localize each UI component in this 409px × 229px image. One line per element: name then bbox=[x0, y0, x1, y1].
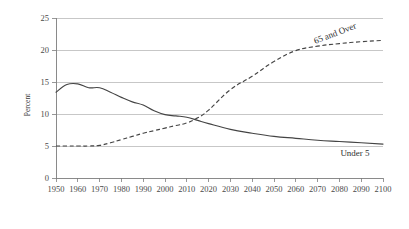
x-tick-label-2000: 2000 bbox=[157, 184, 174, 194]
x-tick-label-1950: 1950 bbox=[48, 184, 65, 194]
y-tick-label-5: 5 bbox=[45, 141, 49, 151]
x-tick-label-2080: 2080 bbox=[331, 184, 348, 194]
y-tick-label-25: 25 bbox=[41, 13, 50, 23]
x-tick-label-2100: 2100 bbox=[375, 184, 392, 194]
series-line-65-and-over bbox=[56, 40, 383, 146]
y-tick-labels: 0 5 10 15 20 25 bbox=[41, 13, 50, 183]
x-tick-label-1970: 1970 bbox=[91, 184, 108, 194]
x-tick-label-2040: 2040 bbox=[244, 184, 261, 194]
y-tick-marks bbox=[52, 18, 56, 178]
y-axis-title: Percent bbox=[23, 93, 32, 116]
x-tick-labels: 1950 1960 1970 1980 1990 2000 2010 2020 … bbox=[48, 184, 392, 194]
x-tick-marks bbox=[56, 178, 383, 182]
y-tick-label-10: 10 bbox=[41, 109, 50, 119]
x-tick-label-1960: 1960 bbox=[69, 184, 86, 194]
y-tick-label-0: 0 bbox=[45, 173, 49, 183]
x-tick-label-2010: 2010 bbox=[178, 184, 195, 194]
x-tick-label-2070: 2070 bbox=[309, 184, 326, 194]
x-tick-label-2050: 2050 bbox=[266, 184, 283, 194]
y-tick-label-20: 20 bbox=[41, 45, 50, 55]
population-percent-line-chart: 0 5 10 15 20 25 1950 1960 1970 1980 1990… bbox=[0, 0, 409, 229]
x-tick-label-2030: 2030 bbox=[222, 184, 239, 194]
x-tick-label-2060: 2060 bbox=[287, 184, 304, 194]
x-tick-label-1990: 1990 bbox=[135, 184, 152, 194]
series-label-under-5: Under 5 bbox=[340, 148, 370, 158]
y-tick-label-15: 15 bbox=[41, 77, 50, 87]
x-tick-label-1980: 1980 bbox=[113, 184, 130, 194]
chart-figure: 0 5 10 15 20 25 1950 1960 1970 1980 1990… bbox=[0, 0, 409, 229]
x-tick-label-2020: 2020 bbox=[200, 184, 217, 194]
x-tick-label-2090: 2090 bbox=[353, 184, 370, 194]
